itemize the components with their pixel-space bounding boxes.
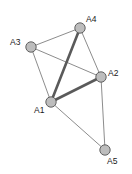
edge-layer xyxy=(31,28,105,150)
graph-edge-a1-a5 xyxy=(51,102,105,150)
graph-node-label-a1: A1 xyxy=(34,105,45,115)
graph-edge-a3-a1 xyxy=(31,47,51,102)
graph-node-label-a3: A3 xyxy=(10,37,21,47)
graph-edge-a2-a5 xyxy=(101,77,105,150)
label-layer: A1A2A3A4A5 xyxy=(10,14,119,166)
graph-node-a3 xyxy=(26,42,36,52)
graph-node-a1 xyxy=(46,97,56,107)
node-layer xyxy=(26,23,110,155)
graph-node-label-a4: A4 xyxy=(86,14,97,24)
graph-node-a5 xyxy=(100,145,110,155)
graph-node-a2 xyxy=(96,72,106,82)
graph-node-label-a5: A5 xyxy=(107,156,118,166)
graph-canvas: A1A2A3A4A5 xyxy=(0,0,132,174)
graph-node-a4 xyxy=(75,23,85,33)
graph-node-label-a2: A2 xyxy=(108,68,119,78)
graph-figure: A1A2A3A4A5 xyxy=(0,0,132,174)
